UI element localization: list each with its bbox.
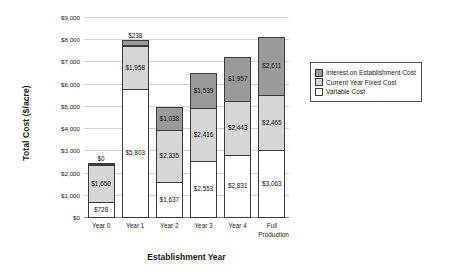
y-axis-tick-label: $4,000 <box>61 125 80 132</box>
bar-segment-variable-cost[interactable]: $3,063 <box>258 150 285 218</box>
x-axis-label: Year 4 <box>224 222 251 239</box>
bar-segment-label: $238 <box>128 33 142 39</box>
bar-group: $0$1,650$728$238$1,958$5,803$1,038$2,335… <box>84 18 289 218</box>
x-axis-tick-labels: Year 0Year 1Year 2Year 3Year 4Full Produ… <box>84 222 289 239</box>
bar-segment-label: $2,611 <box>262 63 281 69</box>
bar-segment-label: $1,637 <box>160 197 180 203</box>
bar-segment-label: $728 <box>94 207 108 213</box>
stacked-bar-chart: Total Cost ($/acre) $0$1,000$2,000$3,000… <box>0 0 461 280</box>
y-axis-tick-label: $8,000 <box>61 36 80 43</box>
y-axis-tick-label: $0 <box>73 214 80 221</box>
chart-legend: Interest on Establishment CostCurrent Ye… <box>310 62 422 102</box>
legend-item[interactable]: Current Year Fixed Cost <box>315 78 416 86</box>
bar-segment-label: $2,416 <box>194 132 214 138</box>
y-axis-tick-label: $5,000 <box>61 102 80 109</box>
y-axis-title: Total Cost ($/acre) <box>21 53 31 193</box>
bar-year-2[interactable]: $1,038$2,335$1,637 <box>156 107 183 218</box>
legend-swatch-interest <box>315 69 323 77</box>
x-axis-label: Year 2 <box>156 222 183 239</box>
x-axis-label: Year 3 <box>190 222 217 239</box>
bar-year-0[interactable]: $0$1,650$728 <box>88 163 115 218</box>
legend-item[interactable]: Interest on Establishment Cost <box>315 69 416 77</box>
bar-segment-current-year-fixed-cost[interactable]: $1,958 <box>122 46 149 90</box>
bar-segment-interest-on-establishment-cost[interactable]: $1,957 <box>224 57 251 100</box>
x-axis-label: Year 1 <box>122 222 149 239</box>
y-axis-tick-label: $2,000 <box>61 169 80 176</box>
bar-year-3[interactable]: $1,539$2,416$2,553 <box>190 73 217 218</box>
x-axis-label: Year 0 <box>88 222 115 239</box>
y-axis-tick-label: $9,000 <box>61 14 80 21</box>
bar-segment-variable-cost[interactable]: $1,637 <box>156 182 183 218</box>
bar-segment-variable-cost[interactable]: $2,553 <box>190 161 217 218</box>
legend-label: Variable Cost <box>326 88 365 95</box>
bar-segment-variable-cost[interactable]: $5,803 <box>122 89 149 218</box>
y-axis-tick-label: $7,000 <box>61 58 80 65</box>
bar-segment-label: $2,465 <box>262 120 282 126</box>
bar-segment-label: $1,539 <box>194 88 214 94</box>
y-axis-tick-label: $1,000 <box>61 191 80 198</box>
bar-segment-label: $1,958 <box>125 65 145 71</box>
legend-label: Interest on Establishment Cost <box>326 69 416 76</box>
x-axis-title: Establishment Year <box>84 252 289 262</box>
bar-segment-current-year-fixed-cost[interactable]: $2,416 <box>190 108 217 162</box>
bar-segment-label: $0 <box>98 156 105 162</box>
legend-item[interactable]: Variable Cost <box>315 88 416 96</box>
y-axis-tick-label: $6,000 <box>61 80 80 87</box>
bar-segment-label: $1,957 <box>228 76 248 82</box>
bar-segment-variable-cost[interactable]: $2,831 <box>224 155 251 218</box>
y-axis-tick-label: $3,000 <box>61 147 80 154</box>
legend-swatch-variable <box>315 88 323 96</box>
bar-segment-label: $3,063 <box>262 181 282 187</box>
bar-segment-label: $2,335 <box>160 153 180 159</box>
legend-swatch-fixed <box>315 78 323 86</box>
bar-segment-label: $2,831 <box>228 183 248 189</box>
bar-segment-current-year-fixed-cost[interactable]: $2,443 <box>224 101 251 155</box>
bar-segment-label: $2,553 <box>194 186 214 192</box>
bar-segment-label: $1,650 <box>91 181 111 187</box>
bar-year-1[interactable]: $238$1,958$5,803 <box>122 40 149 218</box>
bar-segment-interest-on-establishment-cost[interactable]: $1,539 <box>190 73 217 107</box>
x-axis-label: Full Production <box>258 222 285 239</box>
bar-segment-variable-cost[interactable]: $728 <box>88 202 115 218</box>
bar-segment-current-year-fixed-cost[interactable]: $2,465 <box>258 95 285 150</box>
bar-segment-interest-on-establishment-cost[interactable]: $1,038 <box>156 107 183 130</box>
bar-segment-current-year-fixed-cost[interactable]: $1,650 <box>88 165 115 202</box>
bar-segment-current-year-fixed-cost[interactable]: $2,335 <box>156 130 183 182</box>
bar-segment-label: $2,443 <box>228 125 248 131</box>
plot-area: $0$1,000$2,000$3,000$4,000$5,000$6,000$7… <box>84 18 289 218</box>
bar-segment-label: $5,803 <box>125 150 145 156</box>
bar-segment-label: $1,038 <box>160 116 180 122</box>
bar-full-production[interactable]: $2,611$2,465$3,063 <box>258 37 285 218</box>
bar-year-4[interactable]: $1,957$2,443$2,831 <box>224 57 251 218</box>
bar-segment-interest-on-establishment-cost[interactable]: $2,611 <box>258 37 285 95</box>
legend-label: Current Year Fixed Cost <box>326 79 396 86</box>
